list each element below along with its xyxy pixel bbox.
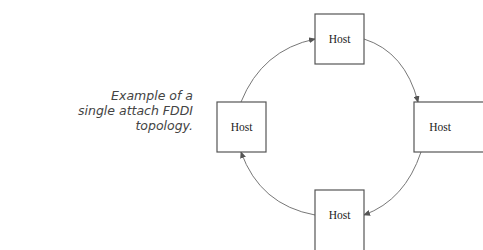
host-label: Host: [231, 121, 254, 133]
ring-link-top-right: [364, 39, 418, 102]
host-node-bottom: Host: [315, 190, 364, 250]
host-label: Host: [329, 33, 352, 45]
host-label: Host: [429, 121, 452, 133]
host-node-right: Host: [414, 102, 483, 152]
ring-link-right-bottom: [364, 152, 421, 215]
host-label: Host: [329, 209, 352, 221]
ring-link-bottom-left: [241, 152, 315, 215]
host-node-top: Host: [315, 14, 364, 64]
ring-link-left-top: [241, 39, 315, 102]
host-node-left: Host: [217, 102, 266, 152]
fddi-ring-diagram: Host Host Host Host: [0, 0, 483, 250]
